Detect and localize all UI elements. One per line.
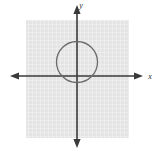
x-axis-right-arrowhead [134, 72, 143, 79]
x-axis-label: x [147, 72, 152, 81]
x-axis-left-arrowhead [10, 72, 19, 79]
y-axis-label: y [78, 1, 83, 10]
y-axis-bottom-arrowhead [73, 139, 80, 148]
figure-container: x y [0, 0, 159, 153]
coordinate-plane-figure: x y [0, 0, 159, 153]
